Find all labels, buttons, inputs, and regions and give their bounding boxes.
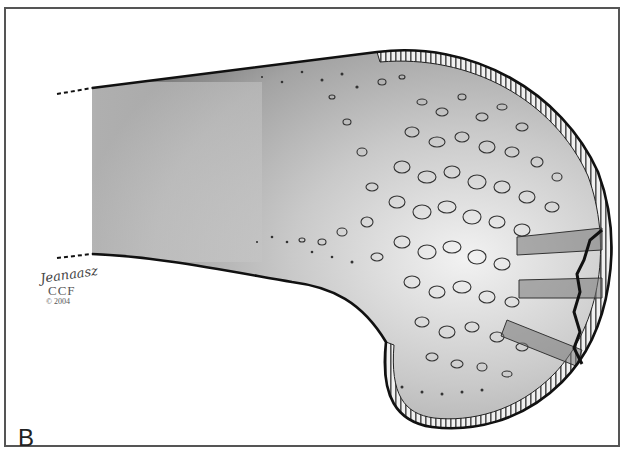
femoral-head-illustration	[6, 9, 622, 449]
panel-label: B	[18, 424, 34, 452]
artist-signature: Jeanaasz CCF © 2004	[34, 267, 114, 317]
figure-frame: Jeanaasz CCF © 2004 B	[4, 7, 620, 447]
signature-copyright: © 2004	[46, 297, 70, 306]
